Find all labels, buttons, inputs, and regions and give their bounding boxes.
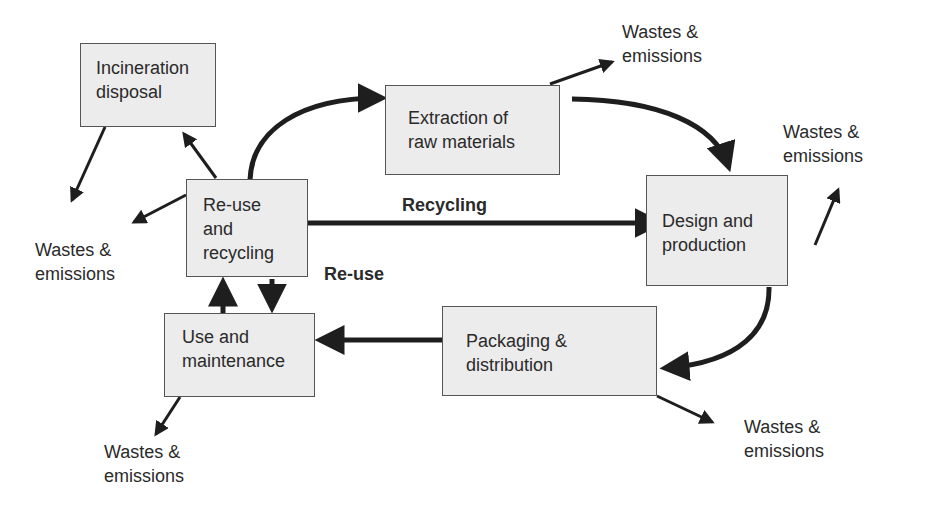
node-label: Use and maintenance [182, 325, 285, 373]
node-design-production: Design and production [646, 175, 788, 286]
wastes-label-left: Wastes & emissions [35, 238, 115, 286]
node-packaging-distribution: Packaging & distribution [442, 306, 657, 396]
wastes-label-top: Wastes & emissions [622, 20, 702, 68]
edge-label-recycling: Recycling [402, 193, 487, 217]
arrow-design-to-wastes [815, 190, 838, 245]
node-label: Re-use and recycling [203, 193, 274, 265]
edge-label-reuse: Re-use [324, 262, 384, 286]
arrow-reuse-to-wastes [134, 195, 186, 222]
node-extraction: Extraction of raw materials [385, 85, 560, 175]
node-incineration-disposal: Incineration disposal [80, 43, 216, 127]
node-label: Packaging & distribution [466, 329, 567, 377]
arrow-reuse-to-extraction [250, 98, 380, 180]
node-reuse-recycling: Re-use and recycling [186, 179, 308, 277]
node-use-maintenance: Use and maintenance [164, 313, 315, 397]
wastes-label-bottom-left: Wastes & emissions [104, 440, 184, 488]
node-label: Design and production [662, 209, 753, 257]
arrow-incineration-to-wastes [72, 127, 105, 200]
arrow-use-to-wastes [156, 397, 180, 434]
arrow-extraction-to-design [572, 99, 728, 165]
arrow-design-to-packaging [667, 287, 769, 368]
node-label: Incineration disposal [96, 56, 189, 104]
arrow-packaging-to-wastes [657, 396, 712, 422]
wastes-label-bottom-right: Wastes & emissions [744, 415, 824, 463]
arrow-extraction-to-wastes [550, 62, 612, 84]
node-label: Extraction of raw materials [408, 106, 515, 154]
arrow-reuse-to-incineration [184, 134, 216, 178]
wastes-label-right: Wastes & emissions [783, 120, 863, 168]
